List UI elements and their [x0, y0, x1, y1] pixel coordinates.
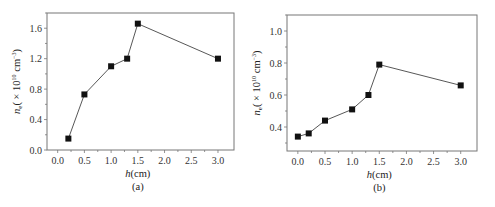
data-point-marker [215, 56, 221, 62]
x-tick-label: 0.5 [78, 155, 91, 166]
x-tick-label: 2.0 [158, 155, 171, 166]
x-tick-label: 0.5 [319, 156, 332, 167]
y-axis-title: ne( × 1010 cm−3) [251, 50, 264, 115]
x-tick-label: 1.5 [132, 155, 145, 166]
data-line [298, 65, 461, 137]
x-tick-label: 3.0 [454, 156, 467, 167]
x-tick-label: 0.0 [292, 156, 305, 167]
chart-panel-b: 0.00.51.01.52.02.53.00.40.60.81.0h(cm)(b… [251, 15, 477, 194]
x-tick-label: 2.0 [400, 156, 413, 167]
figure: 0.00.51.01.52.02.53.00.00.40.81.21.6h(cm… [0, 0, 495, 207]
y-tick-label: 0.8 [270, 58, 283, 69]
data-point-marker [322, 118, 328, 124]
plot-frame [287, 15, 477, 151]
panel-caption: (a) [132, 181, 144, 193]
y-tick-label: 0.0 [30, 145, 43, 156]
data-point-marker [65, 136, 71, 142]
panel-caption: (b) [373, 182, 386, 194]
data-point-marker [295, 134, 301, 140]
x-axis-title: h(cm) [125, 168, 151, 180]
data-point-marker [376, 62, 382, 68]
x-tick-label: 2.5 [185, 155, 198, 166]
y-tick-label: 1.2 [30, 53, 43, 64]
x-tick-label: 2.5 [427, 156, 440, 167]
data-point-marker [365, 92, 371, 98]
plot-frame [47, 13, 234, 150]
data-point-marker [306, 130, 312, 136]
x-axis-title: h(cm) [367, 169, 393, 181]
y-tick-label: 1.0 [270, 26, 283, 37]
x-tick-label: 1.5 [373, 156, 386, 167]
y-tick-label: 0.6 [270, 90, 283, 101]
data-point-marker [124, 56, 130, 62]
x-tick-label: 0.0 [51, 155, 64, 166]
data-point-marker [349, 106, 355, 112]
y-tick-label: 0.4 [270, 122, 283, 133]
data-line [68, 24, 218, 139]
y-tick-label: 1.6 [30, 23, 43, 34]
data-point-marker [458, 82, 464, 88]
data-point-marker [135, 21, 141, 27]
x-tick-label: 1.0 [346, 156, 359, 167]
y-tick-label: 0.4 [30, 114, 43, 125]
x-tick-label: 3.0 [212, 155, 225, 166]
y-tick-label: 0.8 [30, 84, 43, 95]
x-tick-label: 1.0 [105, 155, 118, 166]
data-point-marker [81, 91, 87, 97]
y-axis-title: ne( × 1010 cm−3) [11, 49, 24, 114]
chart-panel-a: 0.00.51.01.52.02.53.00.00.40.81.21.6h(cm… [11, 13, 234, 193]
data-point-marker [108, 63, 114, 69]
